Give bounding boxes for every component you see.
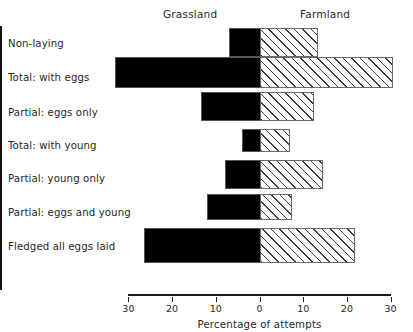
category-label: Partial: eggs and young [8, 207, 131, 218]
x-axis-tick-label: 30 [385, 303, 397, 314]
zero-axis-line [0, 26, 2, 290]
bar-farmland [260, 28, 319, 57]
bar-farmland [260, 194, 293, 220]
category-label: Fledged all eggs laid [8, 241, 115, 252]
bar-grassland [201, 92, 262, 121]
x-axis-tick [303, 297, 304, 302]
category-label: Partial: eggs only [8, 107, 98, 118]
bar-farmland [260, 129, 290, 152]
x-axis-tick [172, 297, 173, 302]
category-label: Non-laying [8, 38, 64, 49]
category-label: Total: with young [8, 140, 97, 151]
x-axis-tick-label: 10 [210, 303, 222, 314]
x-axis-tick [347, 297, 348, 302]
category-label: Total: with eggs [8, 72, 89, 83]
x-axis-tick [216, 297, 217, 302]
x-axis-line [128, 294, 390, 296]
plot-area: Non-layingTotal: with eggsPartial: eggs … [0, 26, 413, 286]
x-axis-tick-label: 0 [256, 303, 262, 314]
x-axis-title: Percentage of attempts [197, 319, 321, 330]
bar-grassland [115, 57, 261, 88]
x-axis-tick-label: 10 [297, 303, 309, 314]
bar-farmland [260, 160, 323, 189]
bar-grassland [144, 228, 262, 263]
x-axis-tick [391, 297, 392, 302]
x-axis-tick-label: 20 [341, 303, 353, 314]
series-header-grassland: Grassland [163, 8, 217, 20]
x-axis-tick [128, 297, 129, 302]
x-axis-tick-label: 30 [122, 303, 134, 314]
x-axis-tick [260, 297, 261, 302]
series-header-farmland: Farmland [300, 8, 350, 20]
x-axis-tick-label: 20 [166, 303, 178, 314]
bar-grassland [207, 194, 261, 220]
bar-chart: Grassland Farmland Non-layingTotal: with… [0, 0, 413, 332]
bar-farmland [260, 228, 356, 263]
bar-farmland [260, 57, 393, 88]
category-label: Partial: young only [8, 173, 105, 184]
bar-grassland [229, 28, 262, 57]
bar-farmland [260, 92, 314, 121]
bar-grassland [225, 160, 262, 189]
